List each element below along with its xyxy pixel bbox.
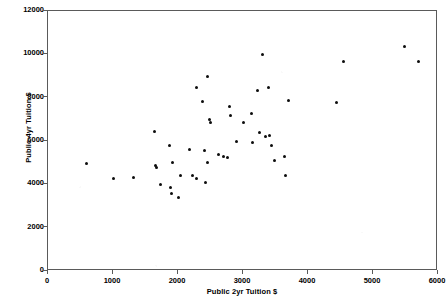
data-point [169,186,172,189]
data-point [206,75,209,78]
x-tick: 4000 [287,270,327,288]
x-tick-label: 6000 [417,276,447,285]
data-point [177,196,180,199]
data-point [342,60,345,63]
data-point [171,161,174,164]
data-point [268,134,271,137]
data-point [251,141,254,144]
data-point [283,155,286,158]
data-point [204,181,207,184]
data-point [206,161,209,164]
data-point [235,140,238,143]
data-point [179,174,182,177]
data-point [256,89,259,92]
x-tick-mark [47,270,48,274]
data-point [203,149,206,152]
y-tick-label: 2000 [6,222,44,231]
data-point [188,148,191,151]
plot-area [47,10,437,270]
data-point [195,177,198,180]
y-tick: 12000 [0,5,44,15]
y-tick-label: 12000 [6,5,44,14]
data-point [112,177,115,180]
data-point [85,162,88,165]
data-point [222,155,225,158]
x-tick-label: 3000 [222,276,262,285]
data-point [403,45,406,48]
data-point [195,86,198,89]
y-tick-label: 4000 [6,178,44,187]
x-tick-label: 4000 [287,276,327,285]
data-point [267,86,270,89]
data-point [155,166,158,169]
x-tick: 1000 [92,270,132,288]
data-point [159,183,162,186]
x-tick: 0 [27,270,67,288]
x-tick-mark [177,270,178,274]
data-point [170,192,173,195]
data-point [261,53,264,56]
data-point [258,131,261,134]
data-point [273,159,276,162]
x-tick-label: 2000 [157,276,197,285]
data-point [284,174,287,177]
data-point [132,176,135,179]
data-point [229,114,232,117]
y-tick: 10000 [0,48,44,58]
x-tick: 3000 [222,270,262,288]
x-tick-mark [307,270,308,274]
data-point [242,121,245,124]
data-point [417,60,420,63]
data-point [209,121,212,124]
x-tick-mark [112,270,113,274]
data-point [335,101,338,104]
x-tick: 6000 [417,270,447,288]
data-point [153,130,156,133]
scatter-chart: Public 4yr Tuition $ 0200040006000800010… [0,0,447,302]
x-tick-mark [242,270,243,274]
data-point [191,174,194,177]
data-point [264,135,267,138]
y-tick-label: 6000 [6,135,44,144]
x-tick-label: 1000 [92,276,132,285]
x-tick-mark [372,270,373,274]
data-point [201,100,204,103]
y-tick: 6000 [0,135,44,145]
y-tick: 8000 [0,92,44,102]
data-point [217,153,220,156]
data-point [287,99,290,102]
data-point [168,144,171,147]
y-tick-label: 8000 [6,92,44,101]
x-tick-label: 0 [27,276,67,285]
data-point [226,156,229,159]
x-tick: 5000 [352,270,392,288]
x-tick: 2000 [157,270,197,288]
x-axis-title: Public 2yr Tuition $ [47,287,437,296]
x-tick-label: 5000 [352,276,392,285]
data-point [228,105,231,108]
y-tick-label: 10000 [6,48,44,57]
data-point [250,112,253,115]
data-point [270,144,273,147]
x-tick-mark [437,270,438,274]
y-tick: 4000 [0,178,44,188]
y-tick: 2000 [0,222,44,232]
